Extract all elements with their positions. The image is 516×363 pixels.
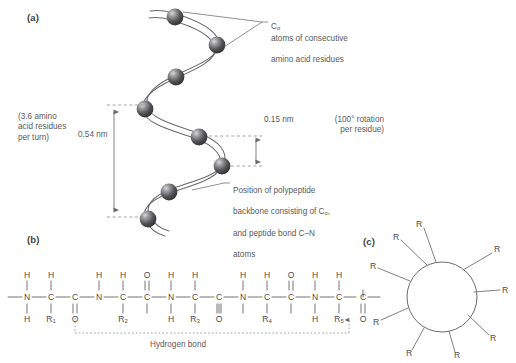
atom-h-alpha-3: H	[192, 270, 198, 280]
wheel-r-label-6: R	[454, 350, 460, 360]
hydrogen-bond-path	[75, 318, 349, 333]
label-backbone-line2a: backbone consisting of C	[233, 207, 324, 216]
side-group-r3-index: 3	[196, 318, 199, 324]
atom-h-amide-5-bottom: H	[312, 314, 318, 324]
side-group-r4: R4	[262, 314, 272, 324]
side-group-r4-index: 4	[268, 318, 271, 324]
label-helix-pitch: 0.54 nm	[78, 130, 108, 140]
atom-h-alpha-2: H	[120, 270, 126, 280]
atom-c-alpha-1: C	[48, 292, 54, 302]
panel-tag-b: (b)	[27, 234, 40, 245]
hydrogen-bond-label: Hydrogen bond	[150, 340, 206, 349]
label-calpha-atoms: Cα atoms of consecutive amino acid resid…	[271, 12, 411, 65]
side-group-r3: R3	[190, 314, 200, 324]
wheel-r-label-8: R	[502, 285, 508, 295]
atom-c-alpha-4: C	[264, 292, 270, 302]
side-group-r1-index: 1	[52, 318, 55, 324]
wheel-r-label-1: R	[416, 219, 422, 229]
wheel-r-label-4: R	[373, 317, 379, 327]
atom-n-2: N	[96, 292, 102, 302]
atom-c-alpha-3: C	[192, 292, 198, 302]
atom-h-amide-5-top: H	[312, 270, 318, 280]
atom-c-carbonyl-1: C	[72, 292, 78, 302]
atom-c-carbonyl-3: C	[216, 292, 222, 302]
label-rotation-per-residue: (100° rotation per residue)	[298, 115, 384, 136]
label-helix-rise: 0.15 nm	[264, 115, 294, 125]
wheel-r-label-2: R	[393, 232, 399, 242]
calpha-spheres	[137, 9, 231, 228]
atom-h-amide-2: H	[96, 270, 102, 280]
pitch-dimension	[107, 105, 152, 217]
atom-h-amide-3-top: H	[168, 270, 174, 280]
atom-n-1: N	[24, 292, 30, 302]
label-calpha-line2: amino acid residues	[271, 55, 344, 64]
atom-h-alpha-5: H	[336, 270, 342, 280]
figure-root: (a) (b) (c) Cα atoms of consecutive amin…	[0, 0, 516, 363]
chain-bonds	[8, 281, 356, 313]
atom-c-carbonyl-2: C	[144, 292, 150, 302]
label-backbone-position: Position of polypeptide backbone consist…	[233, 176, 363, 261]
atom-c-carbonyl-4: C	[288, 292, 294, 302]
atom-n-3: N	[168, 292, 174, 302]
side-group-r2: R2	[118, 314, 128, 324]
atom-h-amide-1-bottom: H	[24, 314, 30, 324]
helical-wheel	[378, 228, 500, 352]
backbone-leader-line	[192, 183, 230, 190]
atom-o-carbonyl-3: O	[216, 314, 223, 324]
wheel-r-label-9: R	[494, 244, 500, 254]
atom-h-alpha-1: H	[48, 270, 54, 280]
atom-h-amide-1: H	[24, 270, 30, 280]
side-group-r2-index: 2	[124, 318, 127, 324]
atom-o-carbonyl-1: O	[72, 314, 79, 324]
panel-tag-c: (c)	[363, 236, 375, 247]
atom-o-carbonyl-4: O	[288, 270, 295, 280]
atom-h-alpha-4: H	[264, 270, 270, 280]
side-group-r5: R5	[334, 314, 344, 324]
atom-o-carbonyl-5: O	[360, 314, 367, 324]
atom-h-amide-4: H	[240, 270, 246, 280]
side-group-r1: R1	[46, 314, 56, 324]
label-backbone-line2b: ,	[328, 207, 330, 216]
panel-tag-a: (a)	[27, 12, 39, 23]
label-backbone-line3: and peptide bond C–N	[233, 229, 315, 238]
atom-c-alpha-2: C	[120, 292, 126, 302]
atom-c-alpha-5: C	[336, 292, 342, 302]
label-backbone-line1: Position of polypeptide	[233, 186, 315, 195]
atom-n-5: N	[312, 292, 318, 302]
atom-o-carbonyl-2: O	[144, 270, 151, 280]
wheel-r-label-3: R	[370, 261, 376, 271]
atom-h-amide-3-bottom: H	[168, 314, 174, 324]
side-group-r5-index: 5	[340, 318, 343, 324]
atom-n-4: N	[240, 292, 246, 302]
atom-c-carbonyl-5: C	[360, 292, 366, 302]
label-calpha-sub: α	[277, 26, 280, 32]
wheel-r-label-5: R	[406, 348, 412, 358]
label-backbone-line4: atoms	[233, 250, 255, 259]
label-calpha-line1: atoms of consecutive	[271, 34, 348, 43]
wheel-r-label-7: R	[490, 333, 496, 343]
